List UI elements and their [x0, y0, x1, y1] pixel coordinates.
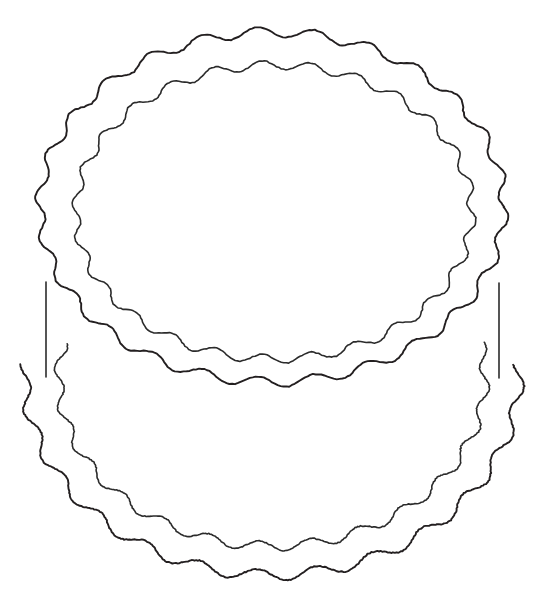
artwork-canvas: Black outline drawing of a round two-lay… [0, 0, 546, 612]
cake-line-drawing [0, 0, 546, 612]
